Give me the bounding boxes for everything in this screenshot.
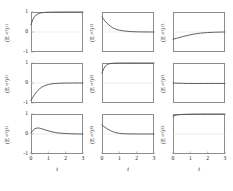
y-axis-label: (E eff)11 bbox=[4, 13, 10, 53]
curve-layer bbox=[102, 12, 154, 52]
curve-layer bbox=[173, 12, 225, 52]
data-curve bbox=[31, 83, 83, 100]
y-axis-label: (E eff)32 bbox=[89, 115, 95, 155]
x-axis-label: t bbox=[31, 166, 83, 172]
y-tick-label: 0 bbox=[16, 29, 28, 35]
x-tick-label: 0 bbox=[168, 156, 178, 162]
x-tick-label: 2 bbox=[61, 156, 71, 162]
data-curve bbox=[102, 63, 154, 73]
data-curve bbox=[173, 32, 225, 39]
y-axis-label: (E eff)13 bbox=[160, 13, 166, 53]
y-axis-label: (E eff)21 bbox=[4, 64, 10, 104]
x-tick-label: 3 bbox=[149, 156, 159, 162]
data-curve bbox=[31, 12, 83, 25]
x-axis-label: t bbox=[102, 166, 154, 172]
curve-layer bbox=[173, 114, 225, 154]
x-tick-label: 1 bbox=[114, 156, 124, 162]
x-tick-label: 2 bbox=[132, 156, 142, 162]
y-axis-label: (E eff)33 bbox=[160, 115, 166, 155]
y-tick-label: 1 bbox=[16, 9, 28, 15]
y-tick-label: 1 bbox=[16, 60, 28, 66]
x-tick-label: 3 bbox=[78, 156, 88, 162]
curve-layer bbox=[173, 63, 225, 103]
figure-panel-grid: 10-1(E eff)11(E eff)12(E eff)1310-1(E ef… bbox=[0, 0, 233, 191]
x-tick-label: 2 bbox=[203, 156, 213, 162]
x-tick-label: 1 bbox=[43, 156, 53, 162]
curve-layer bbox=[102, 63, 154, 103]
data-curve bbox=[102, 17, 154, 32]
y-axis-label: (E eff)22 bbox=[89, 64, 95, 104]
y-tick-label: 1 bbox=[16, 111, 28, 117]
y-tick-label: -1 bbox=[16, 100, 28, 106]
data-curve bbox=[173, 83, 225, 84]
data-curve bbox=[102, 125, 154, 134]
curve-layer bbox=[31, 12, 83, 52]
x-tick-label: 1 bbox=[185, 156, 195, 162]
curve-layer bbox=[31, 114, 83, 154]
x-tick-label: 0 bbox=[97, 156, 107, 162]
x-tick-label: 3 bbox=[220, 156, 230, 162]
curve-layer bbox=[31, 63, 83, 103]
y-axis-label: (E eff)12 bbox=[89, 13, 95, 53]
y-axis-label: (E eff)23 bbox=[160, 64, 166, 104]
data-curve bbox=[173, 114, 225, 116]
curve-layer bbox=[102, 114, 154, 154]
x-axis-label: t bbox=[173, 166, 225, 172]
x-tick-label: 0 bbox=[26, 156, 36, 162]
y-axis-label: (E eff)31 bbox=[4, 115, 10, 155]
y-tick-label: 0 bbox=[16, 131, 28, 137]
y-tick-label: 0 bbox=[16, 80, 28, 86]
data-curve bbox=[31, 128, 83, 134]
y-tick-label: -1 bbox=[16, 49, 28, 55]
